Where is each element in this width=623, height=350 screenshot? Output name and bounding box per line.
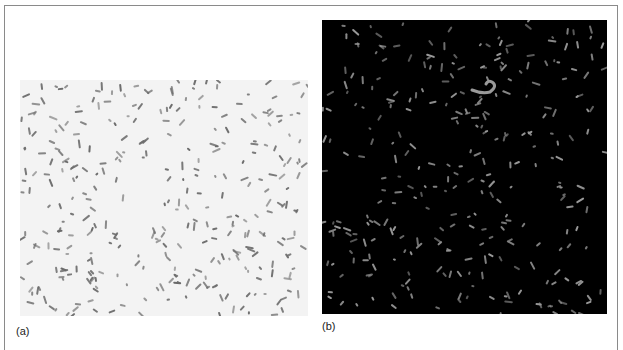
panel-label-b: (b) [322, 320, 335, 332]
bacteria-cells-fluorescence [322, 20, 607, 314]
micrograph-panel-a [20, 80, 308, 316]
bacteria-cells-brightfield [20, 80, 308, 316]
panel-label-a: (a) [16, 325, 29, 337]
micrograph-panel-b [322, 20, 607, 314]
